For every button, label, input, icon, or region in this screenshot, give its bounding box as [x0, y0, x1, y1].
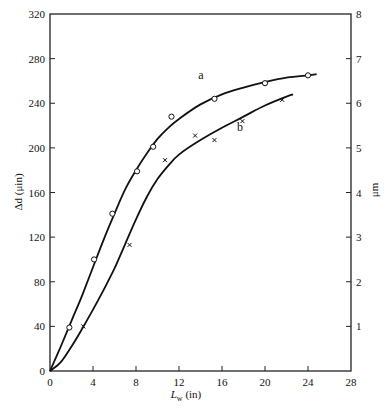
y-tick-label: 240	[29, 97, 46, 109]
x-tick-label: 12	[174, 376, 185, 388]
x-tick-label: 4	[90, 376, 96, 388]
y-tick-label: 40	[34, 320, 46, 332]
y-right-tick-label: 8	[356, 8, 362, 20]
y-right-tick-label: 7	[356, 53, 362, 65]
y-right-tick-label: 2	[356, 276, 362, 288]
series-curves	[50, 74, 317, 371]
circle-marker	[110, 211, 115, 216]
y-tick-label: 80	[34, 276, 46, 288]
series-label-b: b	[237, 120, 243, 134]
circle-marker	[91, 257, 96, 262]
y-right-tick-label: 6	[356, 97, 362, 109]
cross-marker	[163, 158, 167, 162]
y-right-tick-label: 1	[356, 320, 362, 332]
y-tick-label: 120	[29, 231, 46, 243]
series-a-curve	[50, 74, 317, 371]
y-tick-label: 320	[29, 8, 46, 20]
y-right-tick-label: 4	[356, 187, 362, 199]
chart: 0481216202428 04080120160200240280320 12…	[0, 0, 389, 410]
x-tick-label: 28	[346, 376, 358, 388]
y-axis-ticks: 04080120160200240280320	[29, 8, 56, 377]
cross-marker	[193, 134, 197, 138]
y-axis-right-title: μm	[368, 182, 380, 197]
series-b-curve	[50, 94, 293, 371]
y-axis-right-ticks: 12345678	[346, 8, 362, 332]
x-axis-title: Lw (in)	[170, 388, 202, 403]
circle-marker	[212, 96, 217, 101]
x-tick-label: 8	[133, 376, 139, 388]
x-tick-label: 20	[260, 376, 272, 388]
x-axis-ticks: 0481216202428	[47, 366, 357, 388]
series-label-a: a	[198, 68, 204, 82]
y-tick-label: 280	[29, 53, 46, 65]
y-right-tick-label: 5	[356, 142, 362, 154]
y-tick-label: 0	[40, 365, 46, 377]
circle-marker	[67, 325, 72, 330]
y-tick-label: 160	[29, 187, 46, 199]
y-axis-title: Δd (μin)	[12, 173, 25, 210]
x-tick-label: 16	[217, 376, 229, 388]
circle-marker	[134, 169, 139, 174]
y-right-tick-label: 3	[356, 231, 362, 243]
circle-marker	[305, 73, 310, 78]
cross-marker	[128, 243, 132, 247]
x-tick-label: 0	[47, 376, 53, 388]
x-tick-label: 24	[303, 376, 315, 388]
cross-marker	[212, 138, 216, 142]
circle-marker	[151, 144, 156, 149]
circle-marker	[262, 81, 267, 86]
circle-marker	[169, 114, 174, 119]
y-tick-label: 200	[29, 142, 46, 154]
